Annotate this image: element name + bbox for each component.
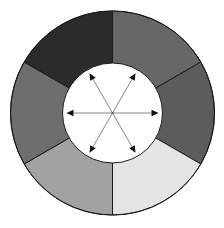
center-point [112,112,114,114]
color-wheel-diagram [0,0,224,228]
